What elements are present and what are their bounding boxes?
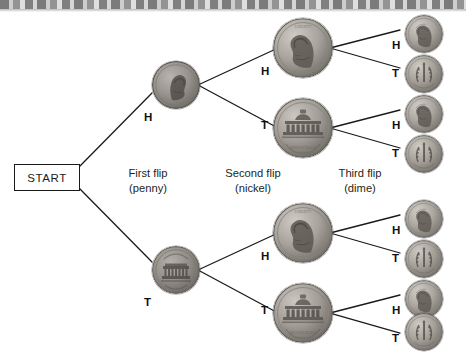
stage-coin-first: (penny) (108, 181, 188, 196)
branch-TT-to-TTT (330, 313, 400, 333)
label-level3-tails-1: T (392, 68, 399, 80)
branch-HH-to-HHT (330, 48, 400, 68)
svg-text:LIBERTY: LIBERTY (295, 209, 312, 214)
coin-nickel-tails-1: MONTICELLO (273, 98, 333, 158)
stage-caption-third-flip: Third flip (dime) (318, 166, 402, 195)
coin-dime-heads-1 (405, 15, 443, 53)
label-level3-heads-3: H (392, 225, 400, 237)
coin-nickel-heads-1: LIBERTY (273, 18, 333, 78)
coin-dime-heads-3 (405, 200, 443, 238)
coin-dime-heads-2 (405, 95, 443, 133)
branch-start-to-T (80, 189, 152, 262)
branch-HH-to-HHH (330, 30, 400, 48)
label-level3-heads-2: H (392, 120, 400, 132)
coin-dime-tails-1 (405, 55, 443, 93)
coin-dime-tails-3 (405, 240, 443, 278)
coin-penny-heads (152, 61, 200, 109)
label-level3-tails-2: T (392, 148, 399, 160)
label-level2-tails-2: T (261, 305, 268, 317)
stage-coin-third: (dime) (318, 181, 402, 196)
svg-text:MONTICELLO: MONTICELLO (290, 145, 316, 150)
svg-text:LIBERTY: LIBERTY (295, 24, 312, 29)
branch-TH-to-THH (330, 215, 400, 233)
coin-dime-tails-2 (405, 135, 443, 173)
label-level1-heads: H (144, 112, 152, 124)
stage-coin-second: (nickel) (205, 181, 301, 196)
start-node: START (14, 164, 80, 191)
coin-dime-tails-4 (405, 313, 443, 351)
label-level2-heads-2: H (261, 251, 269, 263)
branch-HT-to-HTT (330, 128, 400, 148)
branch-HT-to-HTH (330, 110, 400, 128)
branch-TT-to-TTH (330, 295, 400, 313)
branch-TH-to-THT (330, 233, 400, 253)
label-level2-tails-1: T (261, 120, 268, 132)
branch-start-to-H (80, 93, 152, 166)
label-level3-tails-3: T (392, 253, 399, 265)
svg-text:MONTICELLO: MONTICELLO (290, 330, 316, 335)
stage-title-first: First flip (128, 167, 167, 179)
label-level3-heads-1: H (392, 40, 400, 52)
start-label: START (27, 172, 67, 184)
label-level3-tails-4: T (392, 333, 399, 345)
label-level3-heads-4: H (392, 305, 400, 317)
label-level2-heads-1: H (261, 66, 269, 78)
coin-flip-tree-diagram: START First flip (penny) Second flip (ni… (0, 0, 466, 352)
stage-title-second: Second flip (225, 167, 280, 179)
stage-caption-first-flip: First flip (penny) (108, 166, 188, 195)
coin-penny-tails (152, 246, 200, 294)
coin-nickel-heads-2: LIBERTY (273, 203, 333, 263)
stage-title-third: Third flip (339, 167, 382, 179)
label-level1-tails: T (144, 297, 151, 309)
stage-caption-second-flip: Second flip (nickel) (205, 166, 301, 195)
coin-nickel-tails-2: MONTICELLO (273, 283, 333, 343)
